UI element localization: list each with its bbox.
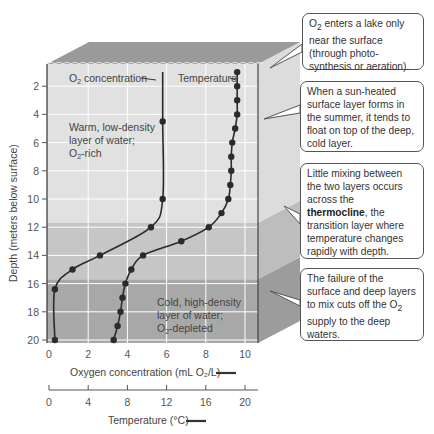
y-axis-title: Depth (meters below surface) [7, 144, 19, 282]
callout-o2-enters: O2 enters a lake only near the surface (… [302, 13, 424, 70]
temperature-series-label: Temperature [178, 72, 237, 84]
x-tick-label-temperature: 8 [124, 396, 130, 408]
data-point-oxygen [52, 286, 58, 292]
cold-layer-label: layer of water; [157, 309, 223, 321]
y-tick-label: 12 [27, 221, 39, 233]
callout-thermocline: Little mixing between the two layers occ… [300, 163, 424, 259]
data-point-temperature [119, 295, 125, 301]
callout-o2-enters-text: O2 enters a lake only near the surface (… [309, 18, 409, 72]
x-tick-label-oxygen: 8 [203, 348, 209, 360]
data-point-temperature [206, 224, 212, 230]
water-surface-top [47, 42, 300, 64]
lake-stratification-chart: 2468101214161820Depth (meters below surf… [0, 0, 434, 434]
y-tick-label: 8 [33, 165, 39, 177]
y-tick-label: 10 [27, 193, 39, 205]
warm-layer-label: Warm, low-density [69, 121, 156, 133]
data-point-temperature [228, 154, 234, 160]
x-tick-label-oxygen: 4 [124, 348, 130, 360]
x-tick-label-temperature: 20 [239, 396, 251, 408]
y-tick-label: 20 [27, 334, 39, 346]
data-point-temperature [234, 111, 240, 117]
data-point-temperature [229, 139, 235, 145]
data-point-temperature [122, 280, 128, 286]
y-tick-label: 4 [33, 108, 39, 120]
side-face-epilimnion [258, 42, 300, 223]
layer-hypolimnion [47, 279, 258, 343]
data-point-oxygen [52, 337, 58, 343]
warm-layer-label: layer of water; [69, 134, 135, 146]
data-point-temperature [117, 309, 123, 315]
x-tick-label-oxygen: 10 [239, 348, 251, 360]
thermocline-term: thermocline [307, 207, 365, 218]
callout-sun-heated-text: When a sun-heated surface layer forms in… [307, 86, 414, 149]
y-tick-label: 14 [27, 249, 39, 261]
x-tick-label-oxygen: 0 [46, 348, 52, 360]
x-tick-label-oxygen: 2 [85, 348, 91, 360]
data-point-temperature [140, 252, 146, 258]
data-point-temperature [178, 238, 184, 244]
callout-thermocline-pre: Little mixing between the two layers occ… [307, 168, 403, 205]
data-point-temperature [227, 182, 233, 188]
warm-layer-label: O2-rich [69, 147, 102, 160]
data-point-temperature [110, 337, 116, 343]
data-point-oxygen [97, 252, 103, 258]
x-axis-title-temperature: Temperature (°C) [108, 414, 189, 426]
data-point-temperature [228, 168, 234, 174]
y-tick-label: 6 [33, 137, 39, 149]
data-point-temperature [218, 210, 224, 216]
y-tick-label: 18 [27, 306, 39, 318]
y-tick-label: 2 [33, 80, 39, 92]
data-point-temperature [234, 97, 240, 103]
data-point-temperature [225, 196, 231, 202]
callout-failure: The failure of the surface and deep laye… [300, 268, 424, 341]
data-point-oxygen [69, 266, 75, 272]
data-point-temperature [128, 266, 134, 272]
y-tick-label: 16 [27, 278, 39, 290]
o2-series-label: O2 concentration [69, 72, 147, 85]
data-point-temperature [114, 323, 120, 329]
x-tick-label-oxygen: 6 [164, 348, 170, 360]
x-tick-label-temperature: 4 [85, 396, 91, 408]
data-point-oxygen [159, 196, 165, 202]
data-point-oxygen [159, 118, 165, 124]
x-tick-label-temperature: 12 [161, 396, 173, 408]
x-tick-label-temperature: 16 [200, 396, 212, 408]
cold-layer-label: Cold, high-density [157, 296, 242, 308]
x-tick-label-temperature: 0 [46, 396, 52, 408]
callout-failure-text: The failure of the surface and deep laye… [307, 273, 416, 340]
data-point-oxygen [148, 224, 154, 230]
callout-sun-heated: When a sun-heated surface layer forms in… [300, 81, 424, 152]
data-point-temperature [232, 125, 238, 131]
x-axis-title-oxygen: Oxygen concentration (mL O₂/L) [70, 366, 220, 378]
